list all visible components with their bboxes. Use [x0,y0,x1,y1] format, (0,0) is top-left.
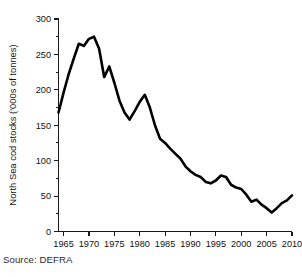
x-tick-label: 1975 [104,239,124,249]
source-caption: Source: DEFRA [3,254,73,265]
x-tick-label: 1965 [53,239,73,249]
x-tick-label: 2010 [282,239,302,249]
y-tick-label: 100 [36,156,51,166]
y-tick-label: 50 [41,191,51,201]
series-line-north-sea-cod-stocks [59,37,293,213]
x-tick-label: 1980 [129,239,149,249]
y-tick-label: 150 [36,121,51,131]
x-tick-label: 1990 [180,239,200,249]
x-tick-label: 1995 [206,239,226,249]
x-axis-ticks: 1965197019751980198519901995200020052010 [53,232,302,249]
y-axis-ticks: 050100150200250300 [36,14,59,237]
y-axis-title: North Sea cod stocks ('000s of tonnes) [7,44,18,205]
x-tick-label: 2005 [256,239,276,249]
y-tick-label: 300 [36,14,51,24]
chart-figure: 050100150200250300 196519701975198019851… [0,0,302,277]
x-tick-label: 1985 [155,239,175,249]
chart-series-group [59,37,293,213]
y-tick-label: 200 [36,85,51,95]
y-tick-label: 250 [36,50,51,60]
cod-stocks-line-chart: 050100150200250300 196519701975198019851… [0,0,302,250]
x-tick-label: 1970 [79,239,99,249]
x-tick-label: 2000 [231,239,251,249]
y-tick-label: 0 [46,227,51,237]
